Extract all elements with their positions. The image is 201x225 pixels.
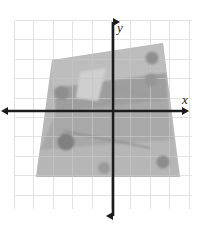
figure-canvas: x y: [0, 0, 201, 225]
coordinate-plane-figure: x y: [0, 0, 201, 225]
x-axis-label: x: [181, 92, 188, 107]
spot-upper-right-lower: [145, 74, 158, 87]
spot-bottom-right: [157, 156, 170, 169]
spot-upper-left: [55, 86, 69, 100]
spot-lower-left: [58, 134, 75, 151]
spot-bottom-center: [98, 162, 110, 174]
y-axis-label: y: [115, 20, 123, 35]
spot-upper-right-top: [146, 52, 159, 65]
